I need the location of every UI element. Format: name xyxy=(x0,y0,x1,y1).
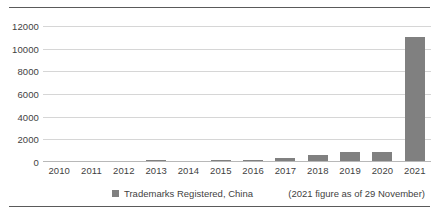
y-tick-label: 6000 xyxy=(17,89,39,100)
y-tick-label: 2000 xyxy=(17,134,39,145)
bar-series xyxy=(43,26,431,162)
bar-slot xyxy=(334,26,366,162)
x-tick-label: 2017 xyxy=(269,165,301,176)
y-axis-labels: 020004000600080001000012000 xyxy=(0,26,39,162)
bottom-divider xyxy=(9,206,430,207)
x-axis-line xyxy=(43,161,431,162)
y-tick-label: 10000 xyxy=(12,43,39,54)
bar-slot xyxy=(366,26,398,162)
y-tick-label: 4000 xyxy=(17,111,39,122)
legend-label: Trademarks Registered, China xyxy=(124,188,253,199)
x-tick-label: 2012 xyxy=(108,165,140,176)
bar-slot xyxy=(269,26,301,162)
x-tick-label: 2020 xyxy=(366,165,398,176)
legend-swatch-icon xyxy=(112,190,119,197)
x-tick-label: 2015 xyxy=(205,165,237,176)
plot-area xyxy=(43,26,431,162)
bar-slot xyxy=(302,26,334,162)
chart-legend: Trademarks Registered, China (2021 figur… xyxy=(0,188,439,202)
x-tick-label: 2021 xyxy=(399,165,431,176)
x-axis-labels: 2010201120122013201420152016201720182019… xyxy=(43,165,431,176)
bar-slot xyxy=(75,26,107,162)
bar-slot xyxy=(237,26,269,162)
bar-slot xyxy=(172,26,204,162)
y-tick-label: 0 xyxy=(34,157,39,168)
bar-slot xyxy=(108,26,140,162)
bar-slot xyxy=(205,26,237,162)
y-tick-label: 12000 xyxy=(12,21,39,32)
x-tick-label: 2011 xyxy=(75,165,107,176)
chart-title-clipped xyxy=(0,0,439,6)
bar[interactable] xyxy=(405,37,425,162)
x-tick-label: 2016 xyxy=(237,165,269,176)
chart-figure: 020004000600080001000012000 201020112012… xyxy=(0,0,439,221)
y-tick-label: 8000 xyxy=(17,66,39,77)
x-tick-label: 2018 xyxy=(302,165,334,176)
bar-slot xyxy=(399,26,431,162)
top-divider xyxy=(9,7,430,8)
x-tick-label: 2010 xyxy=(43,165,75,176)
x-tick-label: 2013 xyxy=(140,165,172,176)
chart-note: (2021 figure as of 29 November) xyxy=(288,188,425,199)
bar-slot xyxy=(140,26,172,162)
legend-entry-trademarks: Trademarks Registered, China xyxy=(112,188,253,199)
x-tick-label: 2019 xyxy=(334,165,366,176)
bar-slot xyxy=(43,26,75,162)
x-tick-label: 2014 xyxy=(172,165,204,176)
